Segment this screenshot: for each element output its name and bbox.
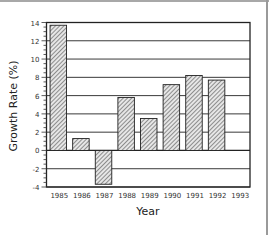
y-tick-label: 2: [35, 129, 39, 137]
x-tick-label: 1987: [96, 192, 114, 200]
y-axis-label: Growth Rate (%): [7, 60, 20, 151]
bar-1992: [208, 80, 225, 150]
y-tick-label: 12: [31, 38, 40, 46]
bar-1991: [186, 76, 203, 151]
x-axis-label: Year: [135, 205, 160, 218]
x-tick-label: 1985: [50, 192, 68, 200]
bar-chart: 14121086420-2-4 198519861987198819891990…: [0, 0, 269, 235]
bar-1985: [50, 25, 67, 150]
x-tick-label: 1986: [73, 192, 91, 200]
y-tick-label: 6: [35, 93, 40, 101]
y-tick-label: 10: [31, 56, 40, 64]
x-tick-label: 1989: [141, 192, 159, 200]
x-axis: 198519861987198819891990199119921993: [50, 192, 249, 200]
y-axis: 14121086420-2-4: [31, 20, 47, 193]
y-tick-label: 4: [35, 111, 40, 119]
x-tick-label: 1988: [118, 192, 136, 200]
bar-1990: [163, 85, 180, 151]
bar-1989: [141, 118, 158, 150]
y-tick-label: 0: [35, 147, 39, 155]
bar-1987: [95, 150, 112, 184]
x-tick-label: 1991: [186, 192, 204, 200]
bars: [50, 25, 225, 184]
bar-1988: [118, 97, 135, 150]
y-tick-label: -4: [33, 184, 41, 192]
bar-1986: [73, 139, 90, 151]
y-tick-label: -2: [33, 166, 40, 174]
x-tick-label: 1990: [163, 192, 181, 200]
y-tick-label: 14: [31, 20, 40, 28]
y-tick-label: 8: [35, 74, 39, 82]
x-tick-label: 1993: [231, 192, 249, 200]
x-tick-label: 1992: [209, 192, 227, 200]
